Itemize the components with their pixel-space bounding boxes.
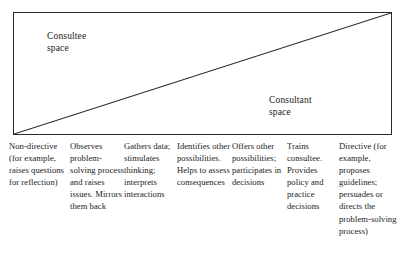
consultant-space-label: Consultant space: [269, 95, 312, 118]
continuum-column-trains-consultee: Trains consultee. Provides policy and pr…: [287, 140, 337, 213]
consultant-space-label-line2: space: [269, 107, 312, 119]
continuum-column-text: Gathers data; stimulates thinking; inter…: [124, 140, 176, 200]
consultant-space-label-line1: Consultant: [269, 95, 312, 107]
continuum-column-identifies-possibilities: Identifies other possibilities. Helps to…: [177, 140, 232, 188]
continuum-column-text: Directive (for example, proposes guideli…: [339, 140, 403, 237]
consultee-space-label-line2: space: [47, 43, 86, 55]
continuum-column-observes: Observes problem-solving process and rai…: [70, 140, 124, 213]
continuum-column-directive: Directive (for example, proposes guideli…: [339, 140, 403, 237]
continuum-column-text: Observes problem-solving process and rai…: [70, 140, 124, 213]
continuum-column-gathers-data: Gathers data; stimulates thinking; inter…: [124, 140, 176, 200]
continuum-descriptions: Non-directive (for example, raises quest…: [0, 140, 409, 266]
continuum-column-offers-possibilities: Offers other possibilities; participates…: [232, 140, 287, 188]
continuum-column-text: Non-directive (for example, raises quest…: [9, 140, 70, 188]
consultee-consultant-box: Consultee space Consultant space: [13, 12, 392, 135]
consultee-space-label: Consultee space: [47, 31, 86, 54]
diagram-page: Consultee space Consultant space Non-dir…: [0, 0, 409, 268]
continuum-column-non-directive: Non-directive (for example, raises quest…: [9, 140, 70, 188]
continuum-column-text: Trains consultee. Provides policy and pr…: [287, 140, 337, 213]
continuum-column-text: Identifies other possibilities. Helps to…: [177, 140, 232, 188]
continuum-column-text: Offers other possibilities; participates…: [232, 140, 287, 188]
consultee-space-label-line1: Consultee: [47, 31, 86, 43]
